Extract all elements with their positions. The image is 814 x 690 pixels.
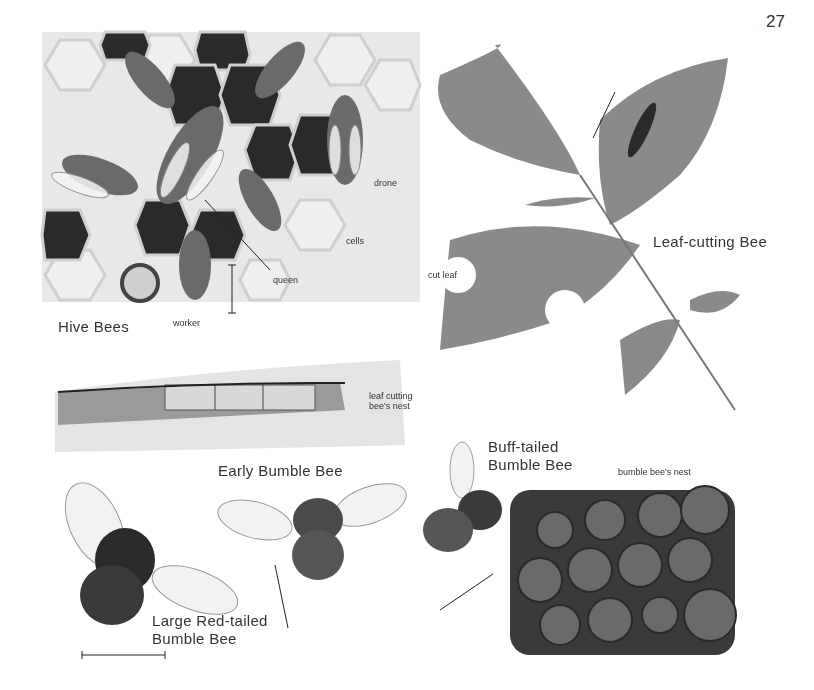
hive-bees-title: Hive Bees xyxy=(58,318,129,336)
cells-label: cells xyxy=(346,236,364,246)
large-red-tailed-line2: Bumble Bee xyxy=(152,630,268,648)
early-bumble-bee-illustration xyxy=(214,475,412,628)
buff-tailed-line1: Buff-tailed xyxy=(488,438,573,456)
leaf-cutting-bee-title: Leaf-cutting Bee xyxy=(653,233,767,251)
early-bumble-bee-title: Early Bumble Bee xyxy=(218,462,343,480)
buff-tailed-title: Buff-tailed Bumble Bee xyxy=(488,438,573,474)
large-red-tailed-line1: Large Red-tailed xyxy=(152,612,268,630)
nest-label-line2: bee's nest xyxy=(369,401,413,411)
bumble-bee-nest-label: bumble bee's nest xyxy=(618,467,691,477)
worker-label: worker xyxy=(173,318,200,328)
honeycomb-illustration xyxy=(42,32,420,313)
illustration-layer xyxy=(0,0,814,690)
cut-leaf-label: cut leaf xyxy=(428,270,457,280)
buff-tailed-line2: Bumble Bee xyxy=(488,456,573,474)
large-red-tailed-title: Large Red-tailed Bumble Bee xyxy=(152,612,268,648)
leaf-cutting-nest-illustration xyxy=(55,360,405,452)
page-number: 27 xyxy=(766,12,785,32)
bumble-bee-nest-illustration xyxy=(510,486,736,655)
queen-label: queen xyxy=(273,275,298,285)
leaf-cutting-nest-label: leaf cutting bee's nest xyxy=(369,391,413,411)
nest-label-line1: leaf cutting xyxy=(369,391,413,401)
drone-label: drone xyxy=(374,178,397,188)
leaf-branch-illustration xyxy=(438,44,740,410)
